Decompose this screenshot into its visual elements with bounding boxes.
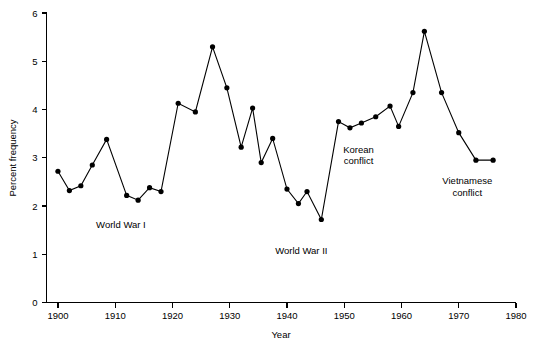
annotation-label: conflict: [344, 155, 374, 166]
x-tick-label: 1940: [276, 310, 297, 321]
y-axis-title: Percent frequency: [7, 119, 18, 196]
data-point-marker: [55, 169, 60, 174]
data-point-marker: [104, 137, 109, 142]
data-point-marker: [124, 193, 129, 198]
data-point-marker: [396, 124, 401, 129]
data-point-marker: [193, 109, 198, 114]
data-point-marker: [422, 29, 427, 34]
x-tick-label: 1930: [219, 310, 240, 321]
x-axis-ticks: 190019101920193019401950196019701980: [47, 303, 526, 321]
data-point-marker: [136, 198, 141, 203]
annotation-label: World War I: [96, 219, 146, 230]
data-point-marker: [78, 183, 83, 188]
y-tick-label: 2: [32, 201, 37, 212]
data-point-marker: [158, 189, 163, 194]
data-point-marker: [250, 105, 255, 110]
data-point-marker: [359, 120, 364, 125]
data-point-marker: [439, 90, 444, 95]
y-tick-label: 1: [32, 249, 37, 260]
data-point-marker: [67, 188, 72, 193]
data-line-series: [58, 31, 493, 219]
data-point-marker: [147, 185, 152, 190]
data-point-marker: [304, 189, 309, 194]
annotation-label: Korean: [343, 144, 374, 155]
data-point-marker: [387, 104, 392, 109]
data-point-marker: [473, 158, 478, 163]
data-point-marker: [284, 187, 289, 192]
data-point-marker: [491, 158, 496, 163]
x-axis-title: Year: [271, 329, 290, 340]
x-tick-label: 1910: [105, 310, 126, 321]
x-tick-label: 1950: [334, 310, 355, 321]
x-tick-label: 1970: [448, 310, 469, 321]
y-tick-label: 4: [32, 104, 37, 115]
data-point-markers: [55, 29, 495, 222]
data-point-marker: [210, 44, 215, 49]
percent-frequency-line-chart: 0123456 19001910192019301940195019601970…: [0, 0, 538, 347]
data-point-marker: [347, 125, 352, 130]
annotation-label: Vietnamese: [442, 175, 492, 186]
data-point-marker: [239, 145, 244, 150]
axes-group: [47, 13, 517, 303]
y-axis-ticks: 0123456: [32, 8, 46, 309]
x-tick-label: 1960: [391, 310, 412, 321]
data-point-marker: [410, 90, 415, 95]
y-tick-label: 0: [32, 297, 37, 308]
data-point-marker: [456, 130, 461, 135]
data-point-marker: [259, 160, 264, 165]
y-tick-label: 5: [32, 56, 37, 67]
data-point-marker: [319, 217, 324, 222]
data-point-marker: [176, 101, 181, 106]
x-tick-label: 1900: [47, 310, 68, 321]
data-point-marker: [90, 162, 95, 167]
annotation-label: conflict: [453, 187, 483, 198]
data-point-marker: [336, 119, 341, 124]
y-tick-label: 6: [32, 8, 37, 19]
annotation-labels: World War IWorld War IIKoreanconflictVie…: [96, 144, 492, 256]
data-point-marker: [224, 85, 229, 90]
data-point-marker: [296, 201, 301, 206]
annotation-label: World War II: [275, 245, 327, 256]
x-tick-label: 1980: [505, 310, 526, 321]
data-point-marker: [270, 136, 275, 141]
x-tick-label: 1920: [162, 310, 183, 321]
y-tick-label: 3: [32, 152, 37, 163]
data-point-marker: [373, 114, 378, 119]
chart-container: 0123456 19001910192019301940195019601970…: [0, 0, 538, 347]
